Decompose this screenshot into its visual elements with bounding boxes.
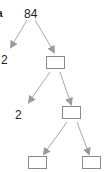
arrow-l2-right <box>77 122 89 154</box>
level1-right-answer-box[interactable] <box>46 56 65 69</box>
arrow-root-left <box>11 20 27 47</box>
arrow-l2-left <box>44 122 67 154</box>
level2-left-number: 2 <box>15 109 22 121</box>
level3-right-answer-box[interactable] <box>82 156 101 169</box>
root-number: 84 <box>24 8 37 20</box>
level1-left-number: 2 <box>1 54 8 66</box>
level3-left-answer-box[interactable] <box>28 156 47 169</box>
tree-arrows <box>0 0 106 172</box>
level2-right-answer-box[interactable] <box>62 106 81 119</box>
arrow-l1-right <box>60 72 71 104</box>
arrow-root-right <box>35 20 54 52</box>
arrow-l1-left <box>29 72 50 102</box>
